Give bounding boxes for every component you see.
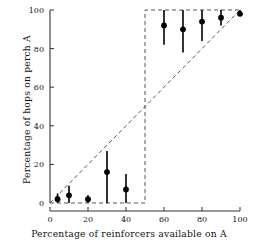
data-point-marker xyxy=(55,196,61,202)
y-tick-label: 60 xyxy=(34,83,44,92)
x-tick-label: 60 xyxy=(159,215,169,224)
y-tick-label: 20 xyxy=(34,160,44,169)
y-axis-title: Percentage of hops on perch A xyxy=(21,0,32,220)
data-point-marker xyxy=(104,169,110,175)
data-point-marker xyxy=(161,23,167,29)
data-point-marker xyxy=(123,187,129,193)
reference-lines-group xyxy=(50,10,240,203)
y-tick-label: 40 xyxy=(34,122,44,131)
data-point-marker xyxy=(237,11,243,17)
x-tick-label: 0 xyxy=(47,215,52,224)
tick-marks-group xyxy=(50,10,240,211)
data-point-marker xyxy=(199,19,205,25)
y-tick-label: 0 xyxy=(39,199,44,208)
scatter-chart-figure: 020406080100020406080100 Percentage of r… xyxy=(0,0,258,249)
maximizing-step-line xyxy=(50,10,240,203)
data-markers-group xyxy=(55,11,243,202)
data-point-marker xyxy=(66,192,72,198)
x-tick-label: 100 xyxy=(232,215,247,224)
error-bars-group xyxy=(58,10,240,203)
x-tick-label: 20 xyxy=(83,215,93,224)
plot-canvas: 020406080100020406080100 xyxy=(0,0,258,249)
data-point-marker xyxy=(85,196,91,202)
axes-group xyxy=(50,10,240,211)
x-axis-title: Percentage of reinforcers available on A xyxy=(0,228,258,239)
x-tick-label: 80 xyxy=(197,215,207,224)
data-point-marker xyxy=(180,26,186,32)
x-tick-label: 40 xyxy=(121,215,131,224)
y-tick-label: 80 xyxy=(34,45,44,54)
data-point-marker xyxy=(218,15,224,21)
